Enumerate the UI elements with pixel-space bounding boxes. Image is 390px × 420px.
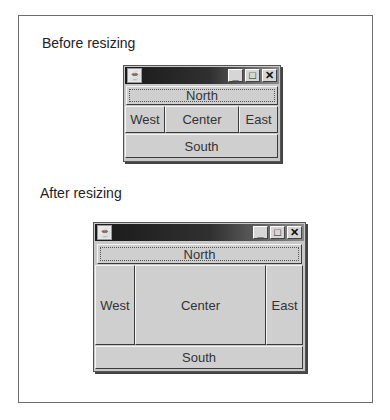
center-button[interactable]: Center xyxy=(165,106,239,133)
maximize-button[interactable]: □ xyxy=(245,69,260,82)
minimize-button[interactable]: _ xyxy=(253,226,268,239)
north-label: North xyxy=(184,247,216,262)
east-button[interactable]: East xyxy=(239,106,278,133)
east-button[interactable]: East xyxy=(266,265,303,345)
center-label: Center xyxy=(181,298,220,313)
west-button[interactable]: West xyxy=(125,106,165,133)
east-label: East xyxy=(271,298,297,313)
west-label: West xyxy=(130,112,159,127)
south-button[interactable]: South xyxy=(95,346,303,369)
minimize-button[interactable]: _ xyxy=(228,69,243,82)
window-after: ☕ _ □ ✕ North West Center East South xyxy=(93,222,306,372)
maximize-button[interactable]: □ xyxy=(270,226,285,239)
close-button[interactable]: ✕ xyxy=(287,226,302,239)
west-button[interactable]: West xyxy=(95,265,135,345)
java-coffee-cup-icon[interactable]: ☕ xyxy=(127,68,142,83)
center-label: Center xyxy=(182,112,221,127)
java-coffee-cup-icon[interactable]: ☕ xyxy=(97,225,112,240)
window-before: ☕ _ □ ✕ North West Center East South xyxy=(123,65,281,162)
title-bar[interactable]: ☕ _ □ ✕ xyxy=(125,67,279,84)
north-button[interactable]: North xyxy=(126,86,278,105)
south-button[interactable]: South xyxy=(125,134,278,158)
close-button[interactable]: ✕ xyxy=(262,69,277,82)
north-button[interactable]: North xyxy=(97,244,302,264)
west-label: West xyxy=(100,298,129,313)
title-bar[interactable]: ☕ _ □ ✕ xyxy=(95,224,304,241)
center-button[interactable]: Center xyxy=(135,265,266,345)
east-label: East xyxy=(245,112,271,127)
south-label: South xyxy=(185,139,219,154)
south-label: South xyxy=(182,350,216,365)
caption-after: After resizing xyxy=(40,185,122,201)
caption-before: Before resizing xyxy=(42,35,135,51)
north-label: North xyxy=(186,88,218,103)
